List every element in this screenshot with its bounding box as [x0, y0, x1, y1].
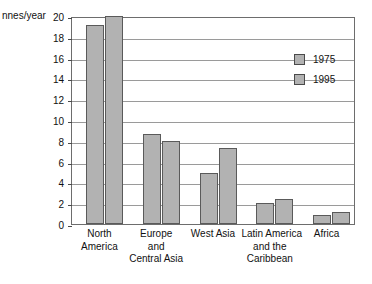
y-tick-label: 8 — [4, 138, 64, 148]
bar-1975 — [200, 173, 218, 224]
bar-chart: nnes/year 02468101214161820 19751995 Nor… — [0, 0, 372, 284]
bar-1975 — [143, 134, 161, 224]
x-category-line: West Asia — [185, 228, 242, 241]
y-tick-label: 2 — [4, 200, 64, 210]
y-tick-label: 6 — [4, 159, 64, 169]
y-tick-label: 14 — [4, 75, 64, 85]
bar-1975 — [86, 25, 104, 224]
legend: 19751995 — [294, 54, 335, 94]
bar-1995 — [275, 199, 293, 224]
legend-item: 1975 — [294, 54, 335, 65]
x-category-label: West Asia — [185, 228, 242, 241]
y-tick-label: 20 — [4, 13, 64, 23]
x-category-line: Central Asia — [128, 253, 185, 266]
bar-group — [78, 18, 123, 224]
bar-1995 — [332, 212, 350, 224]
x-category-label: EuropeandCentral Asia — [128, 228, 185, 266]
y-tick-label: 0 — [4, 221, 64, 231]
y-tick-label: 10 — [4, 117, 64, 127]
bar-group — [248, 18, 293, 224]
legend-swatch — [294, 74, 305, 85]
x-category-line: and the — [241, 241, 298, 254]
x-category-line: Latin America — [241, 228, 298, 241]
legend-label: 1995 — [313, 75, 335, 85]
x-category-line: and — [128, 241, 185, 254]
bar-group — [135, 18, 180, 224]
legend-swatch — [294, 54, 305, 65]
bar-1995 — [162, 141, 180, 224]
y-tick-mark — [68, 226, 72, 227]
y-tick-label: 18 — [4, 34, 64, 44]
x-category-label: Latin Americaand theCaribbean — [241, 228, 298, 266]
x-axis-category-labels: NorthAmericaEuropeandCentral AsiaWest As… — [71, 228, 355, 282]
x-category-label: Africa — [298, 228, 355, 241]
x-category-line: Africa — [298, 228, 355, 241]
bar-group — [192, 18, 237, 224]
x-category-line: Caribbean — [241, 253, 298, 266]
bar-1995 — [219, 148, 237, 224]
bar-1975 — [256, 203, 274, 224]
x-category-label: NorthAmerica — [71, 228, 128, 253]
x-category-line: Europe — [128, 228, 185, 241]
legend-item: 1995 — [294, 74, 335, 85]
y-tick-label: 16 — [4, 55, 64, 65]
bar-1995 — [105, 16, 123, 224]
y-tick-label: 12 — [4, 96, 64, 106]
bar-1975 — [313, 215, 331, 224]
bars-layer — [72, 18, 354, 224]
x-category-line: North — [71, 228, 128, 241]
plot-area: 02468101214161820 19751995 — [71, 17, 355, 225]
x-category-line: America — [71, 241, 128, 254]
bar-group — [305, 18, 350, 224]
legend-label: 1975 — [313, 55, 335, 65]
y-tick-label: 4 — [4, 179, 64, 189]
